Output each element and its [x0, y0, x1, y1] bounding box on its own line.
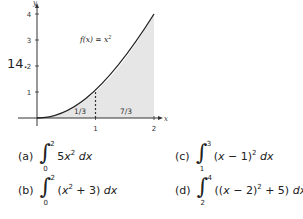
- option-c: (c) ∫31 (x − 1)2 dx: [175, 143, 273, 169]
- shaded-region: [37, 14, 154, 118]
- area-under-curve-graph: 1 2 1 2 3 4 x y f(x) = x2 1/3 7/3: [0, 0, 170, 135]
- lower-limit: 0: [43, 165, 47, 173]
- integral-sign-icon: ∫20: [40, 177, 54, 203]
- y-tick-label-4: 4: [27, 11, 32, 19]
- y-tick-label-3: 3: [27, 37, 31, 45]
- option-label: (a): [18, 150, 33, 163]
- integral-sign-icon: ∫20: [39, 143, 53, 169]
- lower-limit: 1: [200, 165, 204, 173]
- x-tick-label-2: 2: [152, 125, 156, 133]
- x-tick-label-1: 1: [93, 125, 97, 133]
- integral-sign-icon: ∫42: [197, 177, 211, 203]
- option-d: (d) ∫42 ((x − 2)2 + 5) dx: [175, 177, 303, 203]
- y-tick-label-1: 1: [27, 89, 31, 97]
- y-tick-label-2: 2: [27, 63, 31, 71]
- function-label: f(x) = x2: [79, 34, 111, 44]
- lower-limit: 2: [201, 199, 205, 207]
- x-axis-arrow-icon: [158, 116, 163, 120]
- option-b: (b) ∫20 (x2 + 3) dx: [18, 177, 117, 203]
- x-axis-label: x: [164, 115, 168, 123]
- option-label: (d): [175, 184, 191, 197]
- integrand: ((x − 2)2 + 5) dx: [215, 184, 303, 197]
- upper-limit: 2: [51, 174, 55, 182]
- integrand: (x2 + 3) dx: [58, 184, 118, 197]
- option-label: (c): [175, 150, 190, 163]
- integrand: (x − 1)2 dx: [214, 150, 274, 163]
- option-a: (a) ∫20 5x2 dx: [18, 143, 92, 169]
- integral-sign-icon: ∫31: [196, 143, 210, 169]
- region-label-left: 1/3: [74, 107, 86, 116]
- option-label: (b): [18, 184, 34, 197]
- region-label-right: 7/3: [120, 107, 132, 116]
- lower-limit: 0: [44, 199, 48, 207]
- upper-limit: 3: [207, 140, 211, 148]
- integrand: 5x2 dx: [57, 150, 92, 163]
- upper-limit: 4: [208, 174, 212, 182]
- upper-limit: 2: [50, 140, 54, 148]
